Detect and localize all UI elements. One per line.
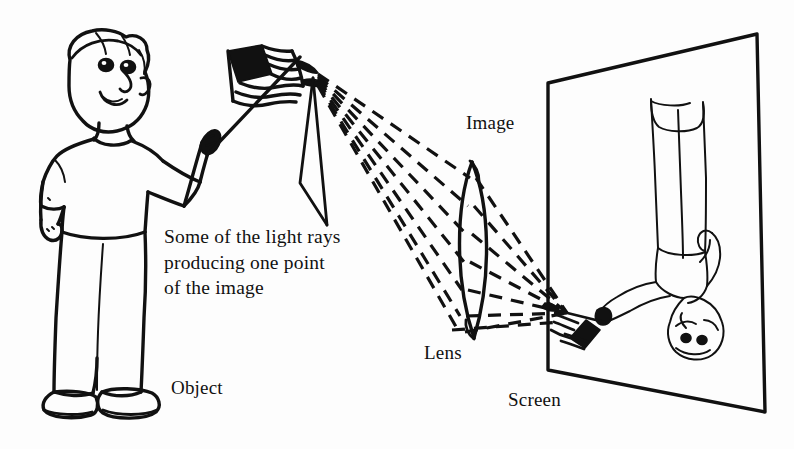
img-hair-line-1 <box>676 322 696 326</box>
screen-label: Screen <box>508 387 561 412</box>
ray-1-refracted <box>476 178 567 313</box>
caption-pointer <box>300 78 327 225</box>
right-eye-glint <box>124 63 129 67</box>
right-cuff <box>102 392 141 396</box>
shirt-hem <box>62 232 145 238</box>
light-rays <box>318 74 567 332</box>
pointer-line-left <box>300 78 327 225</box>
nose <box>120 72 131 92</box>
trouser-outer-left <box>54 232 62 392</box>
optics-figure: .ink { fill: none; stroke: #111111; stro… <box>0 0 794 449</box>
object-label: Object <box>171 375 223 400</box>
shirt-left-shoulder <box>41 139 94 206</box>
left-arm-outer <box>41 182 43 220</box>
lens-label: Lens <box>424 340 462 365</box>
img-left-eye <box>681 334 691 343</box>
rays-caption: Some of the light rays producing one poi… <box>164 224 341 301</box>
img-left-arm-outer <box>707 233 720 286</box>
right-shoe-sole <box>103 410 157 415</box>
shirt-mark <box>48 198 50 200</box>
img-flag-canton <box>570 320 600 348</box>
img-nose <box>681 313 686 328</box>
image-label: Image <box>466 110 514 135</box>
img-trouser-right <box>703 102 706 252</box>
shirt-fold-left <box>55 160 65 182</box>
collar <box>94 138 132 145</box>
flag-canton <box>228 45 272 82</box>
img-torso-left <box>656 248 658 282</box>
img-left-shoe-sole <box>651 101 690 105</box>
image-figure <box>542 99 724 360</box>
hair-line-2 <box>96 33 106 54</box>
img-hair-line-2 <box>704 320 718 330</box>
img-shirt-hem <box>658 248 705 255</box>
left-hand <box>41 220 62 240</box>
arm-upper-bottom <box>148 192 184 206</box>
img-flag-tip <box>542 303 558 311</box>
pointer-line-right <box>313 78 327 225</box>
shirt-right-side <box>145 192 148 232</box>
left-eye <box>99 59 114 72</box>
head-outline <box>69 30 149 132</box>
figure-canvas: .ink { fill: none; stroke: #111111; stro… <box>0 0 794 449</box>
img-right-arm-bottom <box>606 296 670 322</box>
ray-2-incident <box>318 76 468 206</box>
shirt-left-sleeve-end <box>41 206 64 209</box>
ray-3-incident <box>318 78 466 234</box>
lens-right-surface <box>472 162 487 338</box>
shirt-right-shoulder <box>132 141 163 161</box>
left-eye-glint <box>102 61 107 65</box>
img-right-eye <box>697 336 707 345</box>
left-hand-knuckle-2 <box>52 227 54 229</box>
lens-left-surface <box>460 162 475 338</box>
img-head-outline <box>668 297 724 360</box>
img-mouth <box>676 348 710 354</box>
trouser-outer-right <box>141 232 146 392</box>
ear <box>140 78 150 95</box>
left-hand-knuckle-1 <box>47 229 49 231</box>
